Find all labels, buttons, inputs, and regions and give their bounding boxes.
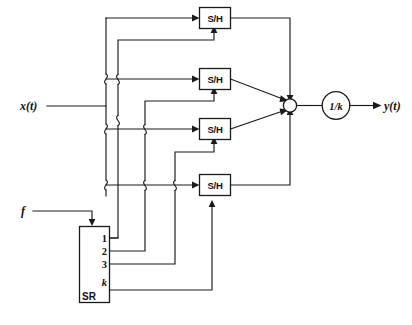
sh4-out-wire bbox=[231, 114, 291, 185]
input-signal-group: x(t) bbox=[19, 99, 106, 113]
output-signal-label: y(t) bbox=[382, 99, 401, 113]
shift-register-block[interactable]: 1 2 3 k SR bbox=[80, 227, 110, 303]
sh4-input-arrow bbox=[192, 182, 200, 189]
sh1-output-path bbox=[231, 18, 294, 102]
gain-label: 1/k bbox=[329, 101, 343, 112]
sh2-label: S/H bbox=[207, 74, 223, 85]
clock-input-group: f bbox=[21, 204, 95, 226]
sample-hold-block-3[interactable]: S/H bbox=[200, 119, 231, 140]
clk2-seg-a bbox=[110, 191, 145, 252]
sh3-out-wire bbox=[231, 111, 284, 129]
clock-line-tap2 bbox=[110, 87, 217, 251]
block-diagram: x(t) bbox=[0, 0, 412, 325]
clk1-seg-a bbox=[110, 126, 118, 239]
sample-hold-block-1[interactable]: S/H bbox=[200, 8, 231, 29]
sh3-input-feed bbox=[106, 126, 200, 133]
clkk-arrow bbox=[209, 200, 216, 207]
sh2-out-wire bbox=[231, 79, 284, 99]
sr-tap-label-2: 2 bbox=[102, 246, 107, 257]
clock-input-label: f bbox=[21, 204, 26, 218]
sh3-input-arrow bbox=[192, 126, 200, 133]
input-signal-label: x(t) bbox=[19, 99, 37, 113]
sh1-out-wire bbox=[231, 18, 291, 96]
clock-line-tapk bbox=[110, 200, 215, 290]
sh2-output-path bbox=[231, 79, 289, 102]
gain-block[interactable]: 1/k bbox=[297, 92, 350, 120]
sample-hold-block-4[interactable]: S/H bbox=[200, 175, 231, 196]
sample-hold-block-2[interactable]: S/H bbox=[200, 69, 231, 90]
output-arrow bbox=[373, 102, 382, 109]
shift-register-label: SR bbox=[82, 291, 97, 302]
summing-junction[interactable] bbox=[283, 99, 296, 112]
sh4-input-feed bbox=[106, 182, 200, 189]
clkk-seg-a bbox=[110, 207, 212, 290]
output-signal-group: y(t) bbox=[350, 99, 401, 113]
sh3-label: S/H bbox=[207, 124, 223, 135]
clock-input-arrow bbox=[89, 219, 96, 226]
sr-tap-label-3: 3 bbox=[102, 259, 107, 270]
sh2-input-arrow bbox=[192, 76, 200, 83]
diagram-canvas: x(t) bbox=[0, 0, 412, 325]
input-distribution-bus bbox=[105, 18, 108, 196]
sh1-label: S/H bbox=[207, 13, 223, 24]
clk1-hop-sh3 bbox=[117, 116, 120, 126]
clk3-seg-a bbox=[110, 191, 175, 265]
clock-input-wire bbox=[33, 211, 92, 219]
sr-tap-label-k: k bbox=[102, 277, 108, 288]
sr-tap-label-1: 1 bbox=[102, 233, 107, 244]
sh1-input-feed bbox=[106, 15, 200, 22]
sh4-label: S/H bbox=[207, 180, 223, 191]
sh3-output-path bbox=[231, 108, 289, 129]
sh2-input-feed bbox=[106, 76, 200, 83]
clock-line-tap3 bbox=[110, 137, 217, 264]
sh4-output-path bbox=[231, 108, 294, 185]
summing-junction-circle[interactable] bbox=[283, 99, 296, 112]
sh1-input-arrow bbox=[192, 15, 200, 22]
